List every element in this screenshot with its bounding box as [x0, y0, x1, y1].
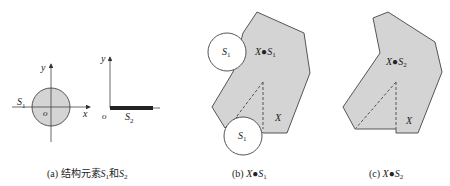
- origin-label-2: o: [102, 111, 107, 121]
- set-x-closing-region: [212, 12, 310, 133]
- structuring-element-s2-bar: [110, 106, 153, 110]
- caption-b: (b) X●S1: [232, 168, 267, 181]
- morphology-closing-diagram: y x o S1 y o S2 (a) 结构元素S1和S2 S1 S1 X●S1…: [0, 0, 450, 186]
- caption-c: (c) X●S2: [369, 168, 404, 181]
- s1-label: S1: [17, 96, 26, 110]
- panel-a: y x o S1 y o S2 (a) 结构元素S1和S2: [12, 53, 160, 181]
- y-axis-label: y: [40, 62, 46, 73]
- set-x-label: X: [274, 112, 282, 123]
- set-x-closing-region-2: [343, 12, 442, 133]
- y-axis-label-2: y: [100, 53, 106, 64]
- panel-c: X●S2 X (c) X●S2: [343, 12, 442, 181]
- caption-a: (a) 结构元素S1和S2: [47, 167, 128, 181]
- panel-b: S1 S1 X●S1 X (b) X●S1: [208, 12, 310, 181]
- x-axis-label: x: [82, 108, 88, 119]
- s2-label: S2: [125, 111, 134, 125]
- set-x-label-2: X: [405, 115, 413, 126]
- origin-label: o: [43, 108, 48, 118]
